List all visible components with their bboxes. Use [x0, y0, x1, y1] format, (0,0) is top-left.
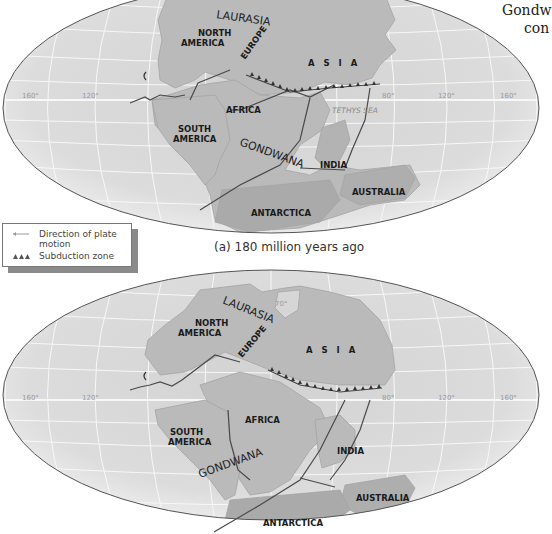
map-a-caption: (a) 180 million years ago [214, 240, 364, 254]
tick-label: 70° [275, 300, 287, 308]
body-text-fragment: con [524, 20, 549, 36]
subduction-triangles-icon [7, 251, 39, 261]
body-text-fragment: Gondw [502, 2, 552, 18]
map-b: 160° 120° 80° 120° 160° 70° LAURASIA NOR… [0, 267, 542, 532]
antarctica-label: ANTARCTICA [263, 518, 323, 528]
legend-label: Direction of platemotion [39, 229, 117, 249]
legend-item-plate-motion: Direction of platemotion [7, 229, 117, 249]
tick-label: 120° [82, 92, 99, 100]
tick-label: 160° [22, 394, 39, 402]
india-label: INDIA [320, 160, 347, 170]
tick-label: 80° [382, 394, 394, 402]
legend-item-subduction: Subduction zone [7, 251, 114, 261]
south-america-label: SOUTH [178, 124, 211, 134]
north-america-label: AMERICA [178, 328, 222, 338]
north-america-label: NORTH [198, 28, 231, 38]
antarctica-label: ANTARCTICA [251, 208, 311, 218]
india-label: INDIA [337, 446, 364, 456]
south-america-label: AMERICA [168, 437, 212, 447]
tick-label: 160° [22, 92, 39, 100]
south-america-label: AMERICA [173, 134, 217, 144]
arrow-icon [7, 229, 39, 239]
australia-label: AUSTRALIA [356, 493, 410, 503]
tick-label: 120° [438, 394, 455, 402]
tick-label: 160° [500, 394, 517, 402]
south-america-label: SOUTH [170, 427, 203, 437]
tick-label: 120° [438, 92, 455, 100]
legend-label: Subduction zone [39, 251, 114, 261]
north-america-label: NORTH [195, 318, 228, 328]
asia-label: A S I A [306, 345, 358, 355]
asia-label: A S I A [308, 58, 360, 68]
tick-label: 120° [82, 394, 99, 402]
tethys-sea-label: TETHYS SEA [332, 106, 378, 115]
africa-label: AFRICA [245, 415, 280, 425]
north-america-label: AMERICA [181, 38, 225, 48]
africa-label: AFRICA [226, 105, 261, 115]
australia-label: AUSTRALIA [352, 187, 406, 197]
map-a-180-mya: 160° 120° 80° 120° 160° LAURASIA NORTH A… [0, 0, 542, 236]
legend: Direction of platemotion Subduction zone [2, 223, 132, 267]
tick-label: 160° [500, 92, 517, 100]
tick-label: 80° [382, 92, 394, 100]
